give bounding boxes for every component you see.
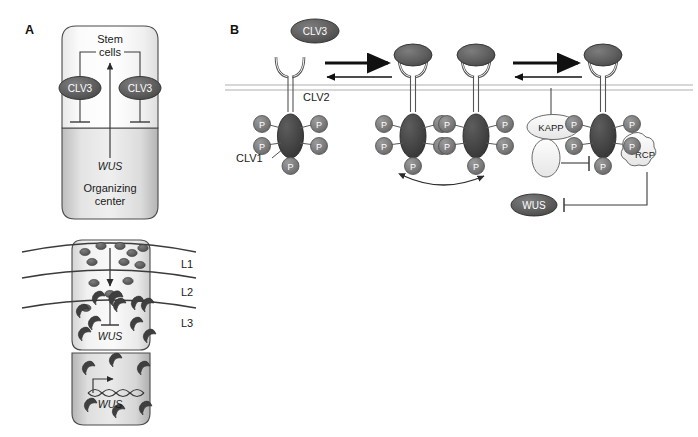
clv1-label: CLV1	[236, 152, 263, 164]
panel-label-b: B	[230, 23, 239, 37]
rcp-to-wus-line	[564, 172, 647, 205]
clv3-left-label: CLV3	[68, 83, 93, 94]
svg-text:P: P	[629, 142, 635, 152]
clv1-kinase-4	[590, 114, 616, 158]
equilibrium-arrows-1-2	[325, 63, 392, 77]
receptor-complex-1: P P P P P CLV2 CLV1	[236, 57, 330, 175]
clv3-bound-ligand-4	[584, 44, 622, 66]
svg-text:P: P	[473, 162, 479, 172]
layer-label-l3: L3	[181, 317, 193, 329]
clv1-leader-line	[272, 149, 283, 158]
clv3-bound-ligand-3	[457, 44, 495, 66]
svg-text:P: P	[571, 120, 577, 130]
clv3-right-node: CLV3	[119, 77, 161, 100]
clv3-ligand-label: CLV3	[303, 26, 328, 37]
figure-root: A Stem cells WUS Organizing center CLV3	[0, 0, 698, 437]
svg-text:P: P	[259, 120, 265, 130]
svg-text:P: P	[502, 120, 508, 130]
wus-gene-label: WUS	[98, 398, 123, 410]
clv2-stalk-4	[601, 76, 606, 112]
panel-a-top-diagram: Stem cells WUS Organizing center CLV3 CL…	[59, 26, 161, 219]
svg-text:P: P	[444, 142, 450, 152]
svg-text:P: P	[287, 162, 293, 172]
layer-label-l1: L1	[181, 258, 193, 270]
kapp-partner-protein	[532, 139, 560, 177]
clv3-right-label: CLV3	[128, 83, 153, 94]
clv3-bound-ligand-2	[394, 44, 432, 66]
equilibrium-arrows-3-4	[513, 63, 582, 77]
svg-text:P: P	[571, 142, 577, 152]
organizing-center-label-line2: center	[95, 195, 126, 207]
stem-cells-label-line2: cells	[99, 46, 122, 58]
svg-text:P: P	[381, 120, 387, 130]
panel-a-bottom-diagram: L1 L2 L3	[22, 240, 196, 425]
svg-text:P: P	[502, 142, 508, 152]
clv1-kinase-1	[278, 114, 304, 158]
wus-label-panel-b: WUS	[522, 200, 546, 211]
clv2-arms-1	[276, 57, 304, 77]
svg-text:P: P	[316, 120, 322, 130]
rcp-wus-repression: WUS	[511, 172, 647, 216]
clv1-kinase-3	[463, 114, 489, 158]
svg-text:P: P	[410, 162, 416, 172]
layer-label-l2: L2	[181, 286, 193, 298]
wus-label-l3: WUS	[98, 330, 123, 342]
organizing-center-label-line1: Organizing	[83, 182, 136, 194]
clv3-left-node: CLV3	[59, 77, 101, 100]
wus-label-top: WUS	[98, 160, 123, 172]
svg-text:P: P	[381, 142, 387, 152]
clv1-kinase-2	[400, 114, 426, 158]
svg-text:P: P	[259, 142, 265, 152]
receptor-complex-3: P P P P P	[439, 44, 514, 175]
clv2-stalk-2	[411, 76, 416, 112]
clv2-label: CLV2	[303, 91, 330, 103]
svg-text:P: P	[600, 162, 606, 172]
clv3-free-ligand: CLV3	[291, 19, 339, 43]
transphosphorylation-arrow	[404, 176, 484, 185]
clv2-stalk-3	[474, 76, 479, 112]
svg-text:P: P	[316, 142, 322, 152]
panel-label-a: A	[25, 23, 34, 37]
stem-cells-label-line1: Stem	[97, 33, 123, 45]
figure-svg: A Stem cells WUS Organizing center CLV3	[0, 0, 698, 437]
svg-text:P: P	[444, 120, 450, 130]
plasma-membrane	[225, 85, 693, 90]
kapp-label: KAPP	[538, 122, 563, 133]
svg-text:P: P	[629, 120, 635, 130]
clv2-stalk-1	[288, 76, 293, 112]
